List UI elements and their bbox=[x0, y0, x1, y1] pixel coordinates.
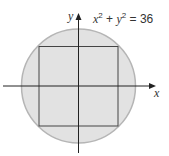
inscribed-square-diagram: x y x2 + y2 = 36 bbox=[0, 0, 169, 156]
y-axis-label: y bbox=[67, 9, 74, 23]
x-axis-label: x bbox=[153, 86, 160, 100]
y-axis-arrow-icon bbox=[76, 13, 82, 20]
circle-equation-label: x2 + y2 = 36 bbox=[92, 11, 154, 26]
